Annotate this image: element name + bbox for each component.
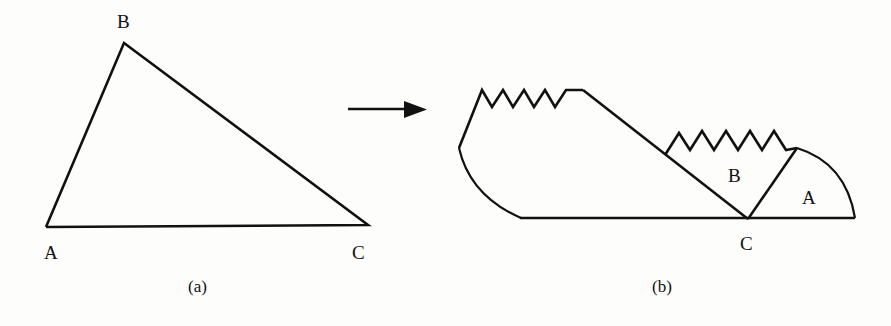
- vertex-label-c-panel-a: C: [352, 243, 365, 262]
- left-piece-zigzag-edge: [459, 90, 583, 148]
- triangle-abc-outline: [46, 43, 368, 227]
- panel-caption-a: (a): [188, 278, 207, 295]
- figure-root: A B C (a) B A C (b): [0, 0, 891, 326]
- panel-a-group: [46, 43, 368, 227]
- vertex-label-c-panel-b: C: [740, 234, 753, 253]
- middle-zigzag-edge: [665, 131, 797, 155]
- left-corner-arc: [459, 148, 521, 218]
- region-label-b-panel-b: B: [728, 166, 741, 185]
- vertex-label-b-panel-a: B: [117, 12, 130, 31]
- vertex-label-a-panel-a: A: [44, 243, 58, 262]
- figure-canvas: [0, 0, 891, 326]
- transformation-arrow: [348, 101, 427, 118]
- wedge-separator-edge: [748, 148, 797, 219]
- region-label-a-panel-b: A: [802, 188, 816, 207]
- panel-caption-b: (b): [652, 278, 672, 295]
- arrow-head-triangle: [404, 101, 427, 118]
- panel-b-group: [459, 90, 855, 219]
